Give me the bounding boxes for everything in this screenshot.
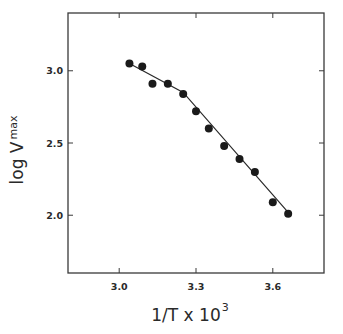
data-point [179, 90, 187, 98]
data-point [236, 155, 244, 163]
axis-ticks [68, 13, 324, 273]
data-points [125, 60, 292, 218]
data-point [148, 80, 156, 88]
data-point [192, 107, 200, 115]
y-tick-label: 2.5 [46, 138, 63, 149]
y-axis-label-main: log V [7, 141, 27, 184]
y-tick-label: 3.0 [46, 65, 63, 76]
y-axis-label: log Vmax [7, 115, 27, 184]
data-point [284, 210, 292, 218]
x-tick-label: 3.0 [111, 281, 128, 292]
y-axis-label-sub: max [7, 115, 20, 139]
y-tick-label: 2.0 [46, 210, 63, 221]
x-tick-label: 3.3 [188, 281, 205, 292]
x-axis-label-main: 1/T x 10 [151, 305, 220, 325]
data-point [164, 80, 172, 88]
x-tick-label: 3.6 [264, 281, 281, 292]
data-point [251, 168, 259, 176]
data-point [269, 198, 277, 206]
data-point [220, 142, 228, 150]
data-point [125, 60, 133, 68]
x-axis-label: 1/T x 103 [151, 301, 228, 325]
data-point [205, 125, 213, 133]
chart: 3.03.33.62.02.53.0 log Vmax 1/T x 103 [0, 0, 343, 334]
data-point [138, 62, 146, 70]
x-axis-label-sup: 3 [222, 301, 229, 314]
plot-frame [68, 13, 324, 273]
tick-labels: 3.03.33.62.02.53.0 [46, 65, 281, 292]
